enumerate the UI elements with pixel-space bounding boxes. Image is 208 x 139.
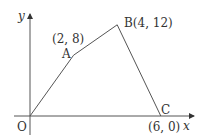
point-c-label: C [161, 103, 170, 117]
point-b-label: B(4, 12) [124, 16, 173, 30]
polyline-oabc [30, 25, 161, 116]
point-c-coord-label: (6, 0) [148, 120, 180, 134]
coordinate-diagram: y x O (2, 8) A B(4, 12) C (6, 0) [0, 0, 208, 139]
point-a-coord-label: (2, 8) [52, 32, 84, 46]
y-axis-label: y [17, 9, 25, 23]
x-axis-label: x [183, 119, 190, 133]
origin-label: O [17, 120, 27, 134]
point-a-label: A [61, 47, 71, 61]
